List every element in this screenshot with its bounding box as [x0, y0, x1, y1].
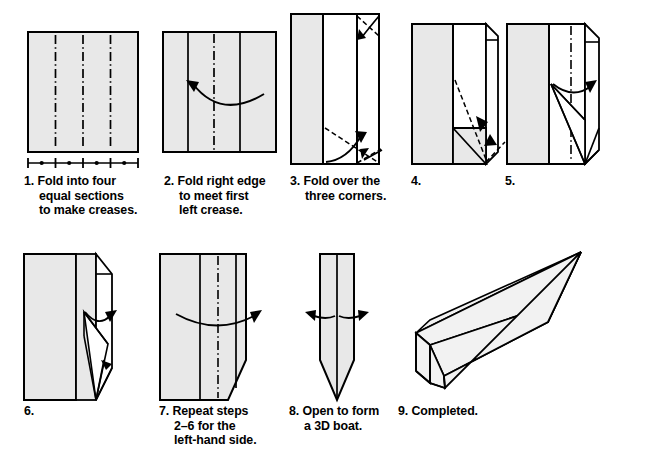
step-7-caption: 7. Repeat steps 2–6 for the left-hand si…: [159, 404, 299, 448]
step-8-figure-group: [288, 248, 398, 403]
step-7-caption-line-3: left-hand side.: [174, 433, 257, 447]
step-5-number: 5.: [505, 174, 515, 188]
step-9-diagram: [398, 240, 613, 405]
step-7-number: 7.: [159, 404, 169, 418]
step-3-caption: 3. Fold over the three corners.: [290, 174, 410, 203]
step-2-diagram: [163, 22, 288, 172]
step-9-caption: 9. Completed.: [398, 404, 538, 419]
step-4-number: 4.: [411, 174, 421, 188]
step-7-caption-line-1: Repeat steps: [172, 404, 248, 418]
step-7-diagram: [158, 248, 283, 403]
step-1-number: 1.: [24, 174, 34, 188]
step-9-caption-line-1: Completed.: [411, 404, 477, 418]
step-2-caption: 2. Fold right edge to meet first left cr…: [164, 174, 304, 218]
step-2-caption-line-3: left crease.: [179, 203, 243, 217]
step-4-figure-group: [410, 10, 515, 172]
step-6-caption: 6.: [24, 404, 84, 419]
step-2-number: 2.: [164, 174, 174, 188]
step-3-diagram: [289, 10, 399, 172]
step-1-diagram: [22, 22, 152, 172]
step-8-diagram: [288, 248, 398, 403]
step-8-caption-line-2: a 3D boat.: [304, 419, 362, 433]
step-8-number: 8.: [289, 404, 299, 418]
step-8-caption-line-1: Open to form: [302, 404, 379, 418]
step-4-caption: 4.: [411, 174, 471, 189]
step-3-caption-line-1: Fold over the: [303, 174, 380, 188]
step-6-diagram: [22, 248, 142, 403]
step-2-figure-group: [163, 22, 288, 172]
step-1-caption-line-2: equal sections: [39, 189, 124, 203]
step-7-caption-line-2: 2–6 for the: [174, 419, 236, 433]
step-7-figure-group: [158, 248, 283, 403]
measurement-bar: [28, 158, 138, 168]
step-3-number: 3.: [290, 174, 300, 188]
step-1-caption-line-1: Fold into four: [37, 174, 115, 188]
step-1-caption: 1. Fold into four equal sections to make…: [24, 174, 164, 218]
step-5-diagram: [505, 10, 640, 172]
step-1-caption-line-3: to make creases.: [39, 203, 137, 217]
step-3-figure-group: [289, 10, 399, 172]
step-2-caption-line-1: Fold right edge: [177, 174, 265, 188]
step-5-figure-group: [505, 10, 640, 172]
step-9-figure-group: [398, 240, 613, 405]
instruction-sheet: 1. Fold into four equal sections to make…: [0, 0, 658, 455]
step-5-caption: 5.: [505, 174, 565, 189]
step-2-caption-line-2: to meet first: [179, 189, 249, 203]
step-4-diagram: [410, 10, 515, 172]
step-6-number: 6.: [24, 404, 34, 418]
step-3-caption-line-2: three corners.: [305, 189, 386, 203]
step-9-number: 9.: [398, 404, 408, 418]
step-1-figure-group: [22, 22, 152, 172]
step-6-figure-group: [22, 248, 142, 403]
